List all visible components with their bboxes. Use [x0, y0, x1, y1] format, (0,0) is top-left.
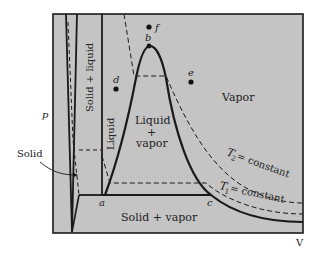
label-point-a: a [99, 197, 105, 208]
pv-phase-diagram: b d e f a c Solid + liquid Liquid Liquid… [0, 0, 321, 256]
x-axis-label: V [295, 237, 304, 248]
label-solid-vapor: Solid + vapor [121, 211, 198, 224]
label-point-d: d [113, 74, 119, 85]
label-vapor: Vapor [221, 91, 255, 104]
label-liquid: Liquid [105, 117, 116, 150]
y-axis-label: p [42, 109, 49, 120]
label-solid: Solid [17, 148, 43, 159]
label-point-c: c [207, 197, 213, 208]
label-solid-liquid: Solid + liquid [84, 42, 95, 112]
point-f [146, 24, 151, 29]
point-e [188, 79, 193, 84]
point-b [147, 44, 152, 49]
point-d [113, 86, 118, 91]
label-point-e: e [188, 67, 194, 78]
label-point-b: b [145, 32, 151, 43]
label-liquid-vapor-3: vapor [135, 137, 168, 150]
